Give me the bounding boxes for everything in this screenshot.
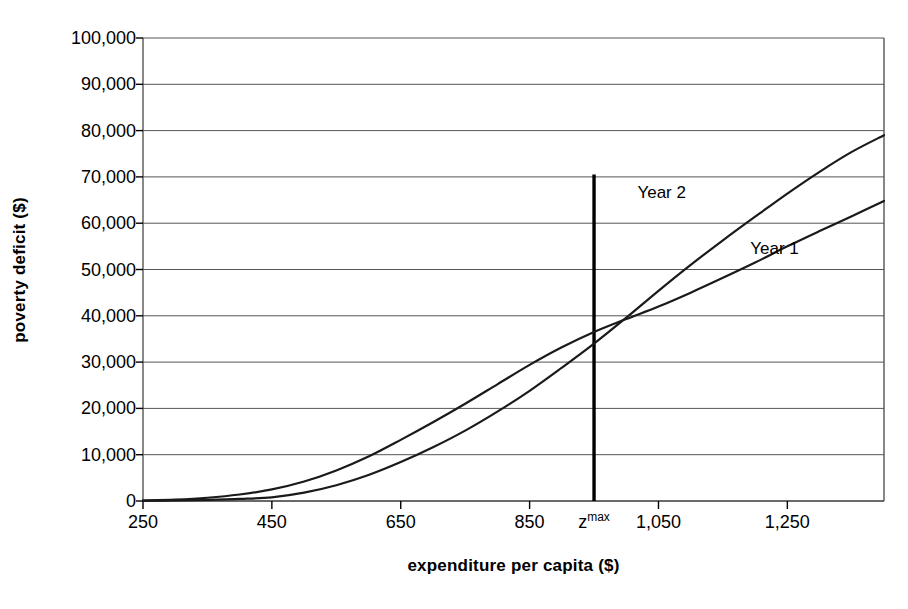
plot-canvas bbox=[0, 0, 908, 609]
axis-ticks bbox=[136, 38, 787, 509]
data-series bbox=[143, 135, 884, 500]
gridlines bbox=[143, 38, 884, 501]
series-annotation: Year 2 bbox=[637, 184, 686, 202]
series-annotation: Year 1 bbox=[750, 240, 799, 258]
series-line-year-2 bbox=[143, 135, 884, 500]
chart-figure: poverty deficit ($) 100,00090,00080,0007… bbox=[0, 0, 908, 609]
